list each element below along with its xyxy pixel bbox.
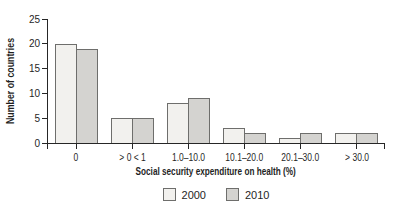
x-tick-0	[76, 144, 77, 149]
bar-2000-cat-0	[55, 44, 77, 143]
bar-2010-cat-3	[244, 133, 266, 143]
bar-2000-cat-2	[167, 103, 189, 143]
x-tick-5	[356, 144, 357, 149]
x-tick-label-2: 1.0–10.0	[160, 152, 216, 163]
bar-2010-cat-5	[356, 133, 378, 143]
bar-2010-cat-1	[132, 118, 154, 143]
x-tick-label-text-0: 0	[74, 152, 79, 163]
x-tick-label-3: 10.1–20.0	[217, 152, 273, 163]
x-tick-label-text-1: > 0 < 1	[119, 152, 145, 163]
x-tick-start	[47, 144, 48, 149]
y-tick-20	[42, 43, 47, 44]
y-tick-label-20: 20	[2, 37, 40, 50]
x-tick-label-0: 0	[48, 152, 104, 163]
bar-2000-cat-4	[279, 138, 301, 143]
y-tick-label-25: 25	[2, 13, 40, 26]
y-tick-5	[42, 118, 47, 119]
bar-2010-cat-4	[300, 133, 322, 143]
y-tick-label-15: 15	[2, 62, 40, 75]
x-axis-title-text: Social security expenditure on health (%…	[136, 165, 296, 177]
x-tick-label-text-3: 10.1–20.0	[226, 152, 264, 163]
x-tick-label-1: > 0 < 1	[104, 152, 160, 163]
x-tick-label-text-2: 1.0–10.0	[172, 152, 205, 163]
plot-area: 05101520250> 0 < 11.0–10.010.1–20.020.1–…	[47, 19, 385, 144]
x-tick-3	[244, 144, 245, 149]
x-tick-4	[300, 144, 301, 149]
y-tick-label-10: 10	[2, 87, 40, 100]
bar-2000-cat-5	[335, 133, 357, 143]
y-tick-10	[42, 93, 47, 94]
legend-label-2010: 2010	[245, 189, 269, 201]
y-tick-label-0: 0	[2, 137, 40, 150]
bar-2000-cat-1	[111, 118, 133, 143]
bar-chart-figure: Number of countries 05101520250> 0 < 11.…	[0, 0, 398, 215]
x-tick-2	[188, 144, 189, 149]
y-tick-25	[42, 19, 47, 20]
x-tick-label-text-5: > 30.0	[345, 152, 369, 163]
x-tick-label-5: > 30.0	[329, 152, 385, 163]
bar-2010-cat-2	[188, 98, 210, 143]
legend-item-2010: 2010	[226, 188, 269, 201]
x-tick-label-text-4: 20.1–30.0	[282, 152, 320, 163]
legend-item-2000: 2000	[163, 188, 206, 201]
x-axis-title: Social security expenditure on health (%…	[47, 165, 385, 177]
x-tick-1	[132, 144, 133, 149]
legend-swatch-2000	[163, 188, 176, 201]
legend-label-2000: 2000	[182, 189, 206, 201]
x-tick-label-4: 20.1–30.0	[273, 152, 329, 163]
x-tick-end	[384, 144, 385, 149]
legend: 2000 2010	[47, 188, 385, 201]
y-tick-15	[42, 68, 47, 69]
legend-swatch-2010	[226, 188, 239, 201]
bar-2010-cat-0	[76, 49, 98, 143]
bar-2000-cat-3	[223, 128, 245, 143]
y-tick-label-5: 5	[2, 112, 40, 125]
